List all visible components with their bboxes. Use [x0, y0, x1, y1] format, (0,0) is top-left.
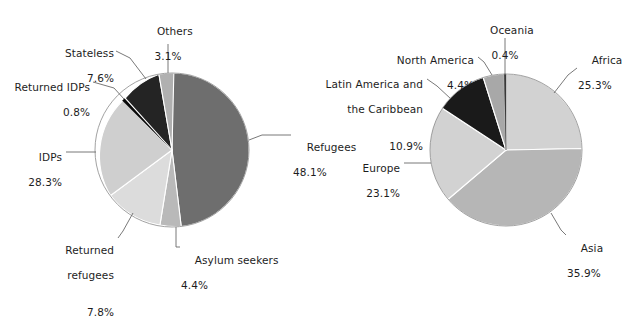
- label-asia: Asia 35.9%: [567, 229, 627, 304]
- label-asia-value: 35.9%: [567, 267, 627, 280]
- label-returned-idps-value: 0.8%: [0, 106, 90, 119]
- leader-line-africa: [554, 68, 577, 93]
- label-europe-text: Europe: [362, 162, 400, 174]
- label-africa-text: Africa: [592, 54, 623, 66]
- label-latin-america-line1: Latin America and: [326, 78, 423, 90]
- label-idps: IDPs 28.3%: [6, 138, 62, 213]
- label-returned-refugees-value: 7.8%: [32, 306, 114, 319]
- label-others: Others 3.1%: [128, 12, 208, 87]
- label-returned-refugees-line1: Returned: [65, 244, 114, 256]
- label-latin-america-line2: the Caribbean: [311, 103, 423, 116]
- label-returned-refugees-line2: refugees: [32, 269, 114, 282]
- leader-line-refugees: [249, 135, 291, 140]
- label-asylum-seekers: Asylum seekers 4.4%: [181, 241, 281, 316]
- label-stateless-text: Stateless: [65, 47, 114, 59]
- label-asylum-seekers-text: Asylum seekers: [195, 254, 279, 266]
- label-asia-text: Asia: [581, 242, 603, 254]
- label-others-value: 3.1%: [128, 50, 208, 63]
- leader-line-asia: [551, 213, 566, 235]
- label-europe: Europe 23.1%: [330, 149, 400, 224]
- slice-refugees[interactable]: [172, 73, 249, 226]
- label-north-america-text: North America: [397, 54, 474, 66]
- label-africa-value: 25.3%: [578, 79, 628, 92]
- label-idps-text: IDPs: [39, 151, 62, 163]
- label-africa: Africa 25.3%: [578, 41, 628, 116]
- label-europe-value: 23.1%: [330, 187, 400, 200]
- label-others-text: Others: [157, 25, 193, 37]
- label-returned-idps: Returned IDPs 0.8%: [0, 68, 90, 143]
- leader-line-returned-refugees: [118, 213, 133, 238]
- label-oceania: Oceania 0.4%: [466, 11, 544, 86]
- label-returned-refugees: Returned refugees 7.8%: [32, 231, 114, 320]
- label-asylum-seekers-value: 4.4%: [181, 279, 281, 292]
- label-idps-value: 28.3%: [6, 176, 62, 189]
- label-oceania-value: 0.4%: [466, 49, 544, 62]
- leader-line-asylum-seekers: [176, 227, 180, 247]
- label-returned-idps-text: Returned IDPs: [15, 81, 90, 93]
- label-oceania-text: Oceania: [490, 24, 534, 36]
